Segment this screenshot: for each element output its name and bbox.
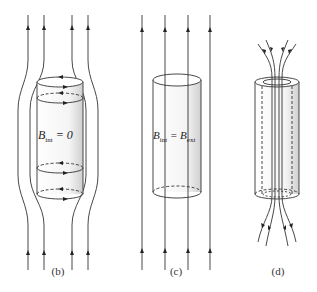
equation-c: Bint = Bext — [153, 129, 195, 144]
diagram — [0, 0, 317, 292]
caption-b: (b) — [43, 265, 73, 277]
equation-b: Bint = 0 — [38, 128, 73, 144]
caption-d: (d) — [263, 265, 293, 277]
caption-c: (c) — [161, 265, 191, 277]
panel-d — [255, 40, 299, 246]
